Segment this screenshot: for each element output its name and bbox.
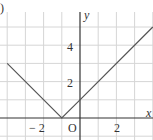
origin-label: O	[68, 122, 77, 134]
y-tick-label-4: 4	[67, 41, 73, 53]
x-axis-label: x	[146, 107, 151, 119]
x-tick-label-2: 2	[114, 122, 120, 134]
x-tick-label-neg2: − 2	[29, 122, 45, 134]
y-axis-label: y	[84, 9, 89, 21]
panel-label: )	[0, 2, 4, 14]
y-tick-label-2: 2	[67, 77, 73, 89]
graph-plot	[0, 0, 153, 140]
